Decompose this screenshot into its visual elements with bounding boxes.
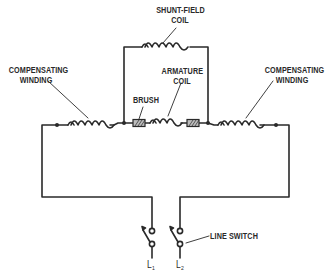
leader-armature: [168, 83, 181, 116]
shunt-field-coil-icon: [142, 43, 188, 50]
label-terminal-l1: L1: [144, 260, 158, 273]
brush-right-icon: [187, 120, 199, 127]
compensating-winding-right-icon: [218, 121, 264, 128]
line-switch-l2-icon: [170, 227, 183, 259]
label-armature-coil: ARMATURE COIL: [162, 66, 203, 86]
shunt-label-line1: SHUNT-FIELD: [156, 5, 204, 15]
brush-label-text: BRUSH: [132, 95, 159, 105]
label-compensating-winding-right: COMPENSATING WINDING: [265, 65, 319, 85]
compensating-winding-left-icon: [68, 121, 114, 128]
line-switch-l1-icon: [142, 227, 155, 259]
label-brush: BRUSH: [132, 95, 159, 105]
shunt-label-line2: COIL: [156, 15, 204, 25]
comp-right-line2: WINDING: [265, 75, 319, 85]
comp-left-line1: COMPENSATING: [9, 65, 63, 75]
leader-comp-right: [246, 81, 273, 118]
leader-shunt: [163, 28, 176, 43]
right-circuit-path: [180, 121, 289, 228]
left-circuit-path: [42, 121, 152, 228]
label-shunt-field-coil: SHUNT-FIELD COIL: [156, 5, 204, 25]
schematic-drawing: [0, 0, 331, 279]
comp-left-line2: WINDING: [9, 75, 63, 85]
leader-comp-left: [48, 81, 88, 118]
label-compensating-winding-left: COMPENSATING WINDING: [9, 65, 63, 85]
circuit-diagram: SHUNT-FIELD COIL COMPENSATING WINDING CO…: [0, 0, 331, 279]
armature-line1: ARMATURE: [162, 66, 203, 76]
armature-line2: COIL: [162, 76, 203, 86]
armature-coil-icon: [150, 119, 182, 126]
label-terminal-l2: L2: [173, 260, 187, 273]
l2-sub: 2: [181, 265, 184, 271]
line-switch-text: LINE SWITCH: [209, 231, 260, 241]
label-line-switch: LINE SWITCH: [209, 231, 260, 241]
leader-brush: [139, 107, 143, 119]
brush-left-icon: [133, 120, 145, 127]
leader-line-switch: [186, 236, 209, 243]
l1-sub: 1: [152, 265, 155, 271]
comp-right-line1: COMPENSATING: [265, 65, 319, 75]
